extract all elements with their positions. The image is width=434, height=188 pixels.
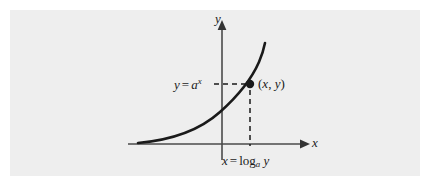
logarithm-label-base: a xyxy=(256,159,260,169)
logarithm-function-label: x=loga y xyxy=(222,154,269,169)
logarithm-label-function-name: log xyxy=(239,153,256,168)
x-axis-label: x xyxy=(312,136,318,149)
y-axis-label: y xyxy=(215,12,221,25)
logarithm-label-operator: = xyxy=(228,153,239,168)
logarithm-label-argument: y xyxy=(263,153,269,168)
graph-canvas xyxy=(0,0,434,188)
logarithm-label-variable: x xyxy=(222,153,228,168)
point-label-comma: , xyxy=(268,76,271,91)
point-label-close-paren: ) xyxy=(280,76,284,91)
exponential-curve xyxy=(138,43,265,143)
x-axis-arrowhead xyxy=(300,140,310,149)
exponential-label-exponent: x xyxy=(198,76,202,86)
y-axis xyxy=(218,20,227,160)
exponential-label-variable: y xyxy=(174,77,180,92)
marked-point-dot xyxy=(246,80,254,88)
exponential-label-operator: = xyxy=(180,77,191,92)
point-coordinates-label: (x, y) xyxy=(258,77,285,90)
exponential-function-label: y=ax xyxy=(174,77,202,91)
